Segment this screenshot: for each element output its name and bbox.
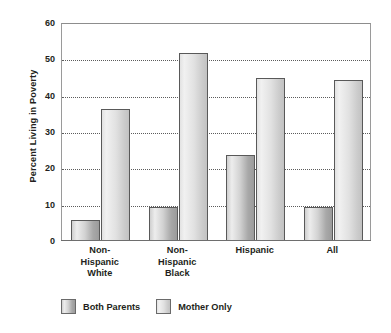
bar-both-parents-all [304, 207, 333, 240]
legend-label: Both Parents [83, 302, 140, 312]
x-axis-label-line: Black [132, 268, 222, 280]
x-axis-label-line: White [55, 268, 145, 280]
legend-label: Mother Only [178, 302, 232, 312]
bar-mother-only-non-hispanic-black [179, 53, 208, 240]
bar-mother-only-non-hispanic-white [101, 109, 130, 240]
y-axis-tick-label: 20 [33, 164, 55, 173]
x-axis-label-line: Hispanic [210, 245, 300, 257]
y-axis-tick-label: 50 [33, 55, 55, 64]
x-axis-label-line: Hispanic [55, 257, 145, 269]
x-axis-label-line: Hispanic [132, 257, 222, 269]
y-axis-tick-label: 40 [33, 91, 55, 100]
legend-swatch-icon [156, 299, 171, 314]
y-axis-tick-label: 0 [33, 237, 55, 246]
bar-both-parents-hispanic [226, 155, 255, 240]
x-axis-label-line: Non- [132, 245, 222, 257]
gridline [62, 60, 370, 61]
legend-item-both[interactable]: Both Parents [61, 299, 140, 314]
bar-both-parents-non-hispanic-white [71, 220, 100, 240]
plot-area [61, 23, 371, 241]
chart-legend: Both ParentsMother Only [61, 299, 232, 314]
bar-mother-only-hispanic [256, 78, 285, 240]
x-axis-label-non-hispanic-white: Non-HispanicWhite [55, 245, 145, 280]
x-axis-label-line: Non- [55, 245, 145, 257]
bar-chart: Percent Living in Poverty 0102030405060 … [0, 0, 391, 333]
bar-both-parents-non-hispanic-black [149, 207, 178, 240]
x-axis-label-non-hispanic-black: Non-HispanicBlack [132, 245, 222, 280]
x-axis-label-line: All [287, 245, 377, 257]
x-axis-label-hispanic: Hispanic [210, 245, 300, 257]
y-axis-tick-labels: 0102030405060 [31, 23, 55, 241]
y-axis-tick-label: 10 [33, 200, 55, 209]
legend-item-mother[interactable]: Mother Only [156, 299, 232, 314]
x-axis-category-labels: Non-HispanicWhiteNon-HispanicBlackHispan… [61, 245, 371, 291]
legend-swatch-icon [61, 299, 76, 314]
y-axis-tick-label: 30 [33, 128, 55, 137]
gridline [62, 97, 370, 98]
x-axis-label-all: All [287, 245, 377, 257]
y-axis-tick-label: 60 [33, 19, 55, 28]
bar-mother-only-all [334, 80, 363, 240]
